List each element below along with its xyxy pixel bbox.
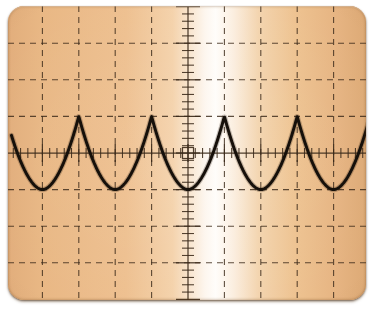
crt-screen[interactable] bbox=[8, 6, 366, 300]
waveform-trace-glow bbox=[11, 117, 366, 190]
oscilloscope-screenshot bbox=[0, 0, 374, 309]
waveform-layer bbox=[8, 6, 366, 300]
